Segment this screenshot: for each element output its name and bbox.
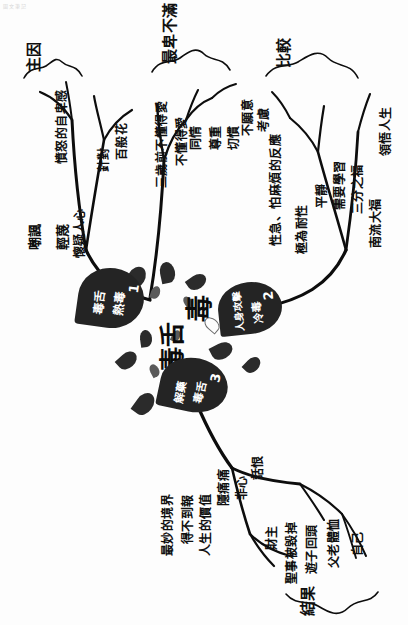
splash-drop: [149, 285, 162, 300]
node-1-line1: 熱毒: [108, 290, 128, 316]
branch-discontent-item-0[interactable]: 三歲前不懂得愛: [152, 101, 169, 189]
branch-result-item-4[interactable]: 非心: [232, 475, 249, 500]
branch-main-cause-item-2[interactable]: 懷疑人心: [70, 208, 87, 258]
branch-result-item-8[interactable]: 父老體恤: [324, 518, 341, 568]
splash-drop: [158, 261, 177, 285]
branch-result-item-3[interactable]: 隱痛痛: [214, 469, 231, 507]
splash-drop: [139, 329, 153, 348]
branch-main-cause-item-0[interactable]: 嘲諷: [24, 223, 43, 250]
branch-result-item-10[interactable]: 話恨: [248, 455, 265, 480]
branch-discontent-item-5[interactable]: 不願意: [238, 99, 255, 137]
branch-discontent-heading: 最卑不滿: [158, 2, 179, 64]
splash-drop: [242, 354, 264, 376]
branch-main-cause-item-3[interactable]: 憤怒的自卑感: [52, 89, 69, 164]
branch-result-item-9[interactable]: 自己: [348, 531, 365, 556]
branch-result-item-5[interactable]: 財主: [262, 525, 279, 550]
branch-main-cause-heading: 主因: [22, 41, 43, 72]
branch-result-item-7[interactable]: 遊子回頭: [302, 524, 319, 574]
splash-drop: [131, 389, 159, 418]
branch-discontent-item-3[interactable]: 尊重: [206, 125, 223, 150]
node-1-number: 1: [126, 283, 142, 294]
branch-main-cause-item-1[interactable]: 輕蔑: [52, 223, 71, 250]
branch-comparison-item-0[interactable]: 性急、怕麻煩的反應: [266, 134, 283, 247]
branch-main-cause-item-4[interactable]: 針對: [94, 147, 111, 172]
branch-comparison-item-3[interactable]: 需要學習: [330, 160, 347, 210]
splash-drop: [185, 271, 209, 294]
branch-result-heading: 結果: [296, 585, 317, 616]
mindmap-canvas: 圖文筆記: [0, 0, 408, 625]
branch-comparison-item-5[interactable]: 南流大福: [366, 198, 383, 248]
node-2-number: 2: [260, 290, 276, 301]
branch-comparison-item-1[interactable]: 極為耐性: [292, 204, 309, 254]
node-2-line1: 冷毒: [247, 301, 265, 325]
branch-main-cause-item-5[interactable]: 百般花: [112, 123, 129, 161]
watermark-text: 圖文筆記: [3, 2, 27, 9]
center-main-word: 毒: [178, 295, 217, 322]
branch-comparison-item-2[interactable]: 平靜: [312, 183, 329, 208]
branch-comparison-heading: 比較: [272, 37, 293, 68]
branch-result-item-0[interactable]: 最妙的境界: [158, 494, 175, 557]
branch-result-item-1[interactable]: 得不到報: [178, 494, 195, 544]
node-2-line2: 人身攻擊: [228, 291, 247, 332]
splash-drop: [209, 339, 236, 363]
branch-comparison-item-4[interactable]: 三分之福: [348, 164, 365, 214]
splash-drop: [115, 348, 141, 373]
node-2[interactable]: 2 冷毒 人身攻擊: [215, 279, 284, 337]
node-1-line2: 毒舌: [88, 289, 108, 315]
node-3-number: 3: [207, 372, 224, 384]
branch-result-item-2[interactable]: 人生的價值: [196, 494, 213, 557]
branch-discontent-item-2[interactable]: 同情: [186, 125, 203, 150]
branch-result-item-6[interactable]: 聖事被毀掉: [282, 522, 299, 585]
node-3-line2: 解藥: [169, 380, 189, 405]
branch-discontent-item-6[interactable]: 考慮: [254, 107, 271, 132]
branch-comparison-item-6[interactable]: 領悟人生: [376, 106, 393, 156]
node-3-line1: 毒舌: [189, 380, 209, 405]
